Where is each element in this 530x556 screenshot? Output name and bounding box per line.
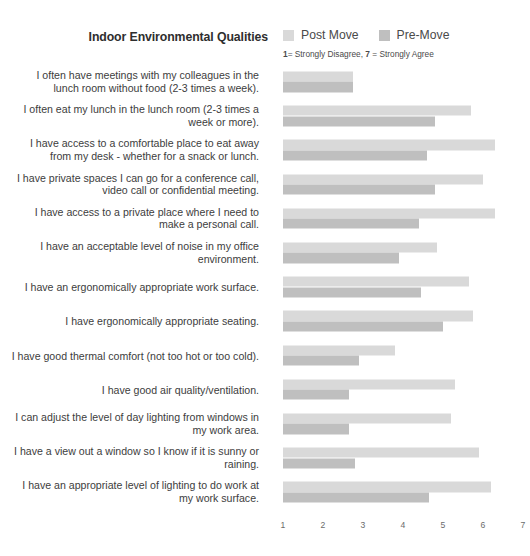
x-axis-tick: 2 [321,520,326,530]
row-bars [283,140,523,161]
bar-post-move[interactable] [283,413,451,423]
row-bars [283,243,523,264]
row-label: I often eat my lunch in the lunch room (… [9,104,259,129]
row-bars [283,379,523,400]
bar-pre-move[interactable] [283,219,419,229]
row-bars [283,482,523,503]
bar-post-move[interactable] [283,311,473,321]
row-bars [283,413,523,434]
bar-pre-move[interactable] [283,287,421,297]
chart-row: I have ergonomically appropriate seating… [0,304,530,338]
row-bars [283,72,523,93]
row-bars [283,448,523,469]
chart-row: I have an acceptable level of noise in m… [0,236,530,270]
row-label: I often have meetings with my colleagues… [9,70,259,95]
legend-item-pre-move[interactable]: Pre-Move [379,28,450,42]
scale-note-high-text: = Strongly Agree [370,49,434,59]
row-label: I have good air quality/ventilation. [9,383,259,396]
row-bars [283,277,523,298]
row-label: I can adjust the level of day lighting f… [9,411,259,436]
x-axis-tick: 6 [481,520,486,530]
row-label: I have an acceptable level of noise in m… [9,240,259,265]
bar-pre-move[interactable] [283,82,353,92]
bar-pre-move[interactable] [283,185,435,195]
bar-post-move[interactable] [283,174,483,184]
row-label: I have a view out a window so I know if … [9,446,259,471]
row-bars [283,345,523,366]
chart-row: I have access to a comfortable place to … [0,133,530,167]
bar-post-move[interactable] [283,243,437,253]
row-label: I have private spaces I can go for a con… [9,172,259,197]
bar-pre-move[interactable] [283,321,443,331]
row-label: I have good thermal comfort (not too hot… [9,349,259,362]
chart-row: I have private spaces I can go for a con… [0,168,530,202]
chart-rows: I often have meetings with my colleagues… [0,65,530,509]
bar-post-move[interactable] [283,72,353,82]
bar-pre-move[interactable] [283,253,399,263]
x-axis-tick: 3 [361,520,366,530]
legend-label-pre-move: Pre-Move [397,28,450,42]
row-bars [283,174,523,195]
row-bars [283,311,523,332]
chart-legend: Post Move Pre-Move [283,28,449,42]
chart-row: I have good air quality/ventilation. [0,373,530,407]
legend-item-post-move[interactable]: Post Move [283,28,359,42]
legend-label-post-move: Post Move [301,28,359,42]
bar-post-move[interactable] [283,140,495,150]
chart-row: I have an ergonomically appropriate work… [0,270,530,304]
scale-note: 1= Strongly Disagree, 7 = Strongly Agree [283,49,434,59]
x-axis: 1234567 [283,520,523,536]
chart-header: Indoor Environmental Qualities Post Move… [0,28,530,68]
row-bars [283,106,523,127]
bar-pre-move[interactable] [283,355,359,365]
bar-pre-move[interactable] [283,150,427,160]
chart-container: Indoor Environmental Qualities Post Move… [0,0,530,556]
scale-note-low-text: = Strongly Disagree, [288,49,366,59]
bar-post-move[interactable] [283,379,455,389]
legend-swatch-pre-move-icon [379,30,390,41]
bar-post-move[interactable] [283,448,479,458]
bar-post-move[interactable] [283,482,491,492]
row-label: I have access to a private place where I… [9,206,259,231]
bar-post-move[interactable] [283,345,395,355]
bar-post-move[interactable] [283,106,471,116]
chart-title: Indoor Environmental Qualities [88,30,268,44]
chart-row: I have access to a private place where I… [0,202,530,236]
chart-row: I have an appropriate level of lighting … [0,475,530,509]
bar-pre-move[interactable] [283,458,355,468]
chart-row: I have good thermal comfort (not too hot… [0,339,530,373]
x-axis-tick: 1 [281,520,286,530]
bar-pre-move[interactable] [283,492,429,502]
bar-post-move[interactable] [283,208,495,218]
row-label: I have access to a comfortable place to … [9,138,259,163]
row-label: I have an appropriate level of lighting … [9,480,259,505]
bar-pre-move[interactable] [283,116,435,126]
chart-row: I have a view out a window so I know if … [0,441,530,475]
chart-row: I often eat my lunch in the lunch room (… [0,99,530,133]
row-bars [283,208,523,229]
row-label: I have ergonomically appropriate seating… [9,315,259,328]
x-axis-tick: 4 [401,520,406,530]
chart-row: I often have meetings with my colleagues… [0,65,530,99]
bar-post-move[interactable] [283,277,469,287]
bar-pre-move[interactable] [283,390,349,400]
row-label: I have an ergonomically appropriate work… [9,281,259,294]
x-axis-tick: 7 [521,520,526,530]
x-axis-tick: 5 [441,520,446,530]
bar-pre-move[interactable] [283,424,349,434]
chart-row: I can adjust the level of day lighting f… [0,407,530,441]
legend-swatch-post-move-icon [283,30,294,41]
